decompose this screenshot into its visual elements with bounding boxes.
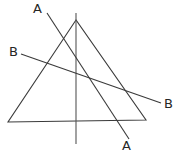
- triangle-shape: [8, 20, 146, 122]
- label-b-left: B: [9, 45, 18, 58]
- diagram-canvas: [0, 0, 173, 155]
- line-a-segment: [47, 13, 129, 139]
- label-a-top: A: [33, 2, 42, 15]
- geometry-diagram: A B B A: [0, 0, 173, 155]
- label-b-right: B: [164, 97, 173, 110]
- line-b-segment: [21, 54, 161, 103]
- label-a-bottom: A: [122, 139, 131, 152]
